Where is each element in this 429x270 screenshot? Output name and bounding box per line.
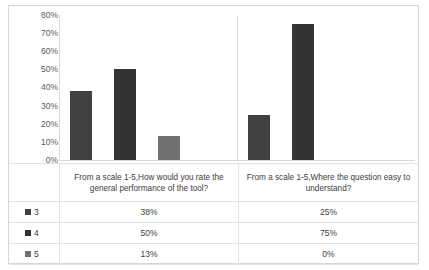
category-label-2: From a scale 1-5,Where the question easy…: [238, 163, 418, 201]
bar-g1-s4: [114, 69, 136, 160]
y-tick-label: 50%: [16, 65, 58, 73]
y-tick-label: 40%: [16, 83, 58, 91]
category-label-1: From a scale 1-5,How would you rate the …: [59, 163, 238, 201]
y-tick-label: 30%: [16, 102, 58, 110]
bar-g2-s3: [248, 115, 270, 160]
chart-container: 80% 70% 60% 50% 40% 30% 20% 10% 0% From …: [8, 5, 419, 264]
y-tick-label: 10%: [16, 138, 58, 146]
table-row: 3 38% 25%: [9, 201, 418, 222]
table-row: 4 50% 75%: [9, 222, 418, 243]
bars-layer: [60, 15, 415, 160]
table-cell-value: 25%: [238, 201, 418, 222]
legend-entry-4: 4: [9, 222, 59, 243]
table-cell-value: 0%: [238, 243, 418, 264]
plot-area: 80% 70% 60% 50% 40% 30% 20% 10% 0%: [9, 6, 418, 163]
y-tick-label: 70%: [16, 29, 58, 37]
table-cell-value: 13%: [59, 243, 238, 264]
y-tick-label: 80%: [16, 11, 58, 19]
legend-entry-3: 3: [9, 201, 59, 222]
bar-g1-s5: [158, 136, 180, 160]
data-table: 3 38% 25% 4 50% 75% 5 13% 0%: [9, 201, 418, 264]
legend-swatch-icon: [25, 251, 31, 257]
y-axis: 80% 70% 60% 50% 40% 30% 20% 10% 0%: [14, 6, 58, 163]
legend-swatch-icon: [25, 230, 31, 236]
table-cell-value: 75%: [238, 222, 418, 243]
legend-entry-5: 5: [9, 243, 59, 264]
table-cell-value: 50%: [59, 222, 238, 243]
table-bottom-border: [9, 264, 418, 265]
legend-label: 4: [34, 228, 39, 238]
bar-g1-s3: [70, 91, 92, 160]
legend-label: 5: [34, 249, 39, 259]
legend-swatch-icon: [25, 209, 31, 215]
bar-g2-s4: [292, 24, 314, 160]
legend-label: 3: [34, 207, 39, 217]
y-tick-label: 60%: [16, 47, 58, 55]
table-row: 5 13% 0%: [9, 243, 418, 264]
table-cell-value: 38%: [59, 201, 238, 222]
category-label-row: From a scale 1-5,How would you rate the …: [9, 163, 418, 201]
category-row-spacer: [9, 163, 59, 201]
y-tick-label: 20%: [16, 120, 58, 128]
x-axis-line: [59, 160, 415, 161]
